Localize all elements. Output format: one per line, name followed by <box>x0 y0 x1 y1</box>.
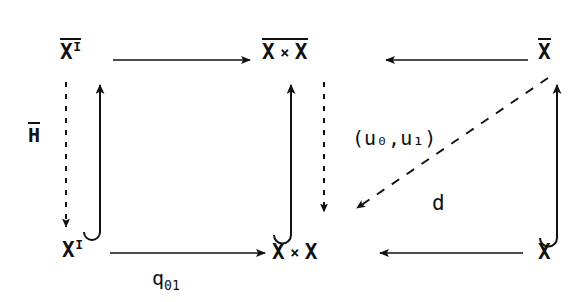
node-top-left: XI <box>60 38 81 63</box>
arrow-left-hooked-up <box>84 85 100 240</box>
node-bottom-left-exponent: I <box>75 237 83 252</box>
node-bottom-left-base: X <box>62 238 75 262</box>
node-bottom-left: XI <box>62 240 83 261</box>
edge-label-bottom-horizontal-base: q <box>152 266 164 290</box>
edge-label-bottom-horizontal: q01 <box>152 268 180 288</box>
node-top-middle: X×X <box>262 38 308 63</box>
edge-label-bottom-horizontal-sub: 01 <box>164 278 180 293</box>
edge-label-diagonal-upper: (u₀,u₁) <box>352 128 436 148</box>
node-bottom-middle-right-base: X <box>305 240 318 264</box>
node-bottom-middle-body: X×X <box>272 242 318 263</box>
node-top-left-body: XI <box>60 38 81 63</box>
times-symbol-top: × <box>275 44 295 62</box>
edge-label-left-vertical-text: H <box>28 122 40 145</box>
node-top-middle-body: X×X <box>262 38 308 63</box>
node-bottom-right: X <box>538 242 551 263</box>
edge-label-diagonal-upper-text: (u₀,u₁) <box>352 126 436 150</box>
node-bottom-right-base: X <box>538 240 551 264</box>
node-top-left-exponent: I <box>73 39 81 54</box>
node-top-right-base: X <box>538 40 551 64</box>
node-top-middle-right-base: X <box>295 40 308 64</box>
node-bottom-right-body: X <box>538 242 551 263</box>
arrow-mid-hooked-up <box>274 85 291 244</box>
node-top-middle-left-base: X <box>262 40 275 64</box>
node-bottom-left-body: XI <box>62 240 83 261</box>
edge-label-left-vertical: H <box>28 122 40 145</box>
times-symbol-bottom: × <box>285 244 305 262</box>
node-top-right-body: X <box>538 38 551 63</box>
node-bottom-middle-left-base: X <box>272 240 285 264</box>
node-top-right: X <box>538 38 551 63</box>
node-bottom-middle: X×X <box>272 242 318 263</box>
node-top-left-base: X <box>60 40 73 64</box>
edge-label-diagonal-lower: d <box>432 193 445 214</box>
commutative-diagram: XI X×X X XI X×X X H q01 (u₀,u₁) d <box>0 0 580 302</box>
arrow-right-hooked-up <box>540 85 557 247</box>
edge-label-diagonal-lower-text: d <box>432 191 445 215</box>
